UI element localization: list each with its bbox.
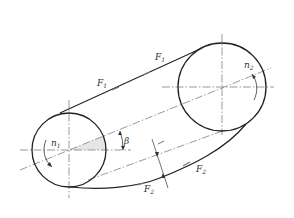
- center-distance-line: [20, 68, 271, 170]
- belt-drive-diagram: n1 n2 β F1 F1 F2 F2: [0, 0, 294, 218]
- driven-speed-label: n2: [244, 60, 254, 71]
- tension-label-f2-left: F2: [143, 184, 154, 195]
- beta-label: β: [123, 136, 129, 146]
- sag-arrowhead-lower: [161, 173, 165, 178]
- driver-speed-label: n1: [51, 138, 61, 149]
- tension-label-f1-upper: F1: [154, 52, 165, 63]
- belt-slack-side: [70, 124, 246, 188]
- tension-label-f2-right: F2: [195, 164, 206, 175]
- driven-rotation-arrowhead: [252, 74, 256, 79]
- tension-label-f1-lower: F1: [96, 78, 107, 89]
- beta-arrowhead-bottom: [121, 146, 125, 150]
- tension-arrow-f1-b: [143, 72, 150, 75]
- beta-arrowhead-top: [118, 131, 122, 135]
- sag-leader: [158, 141, 164, 144]
